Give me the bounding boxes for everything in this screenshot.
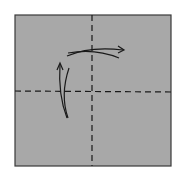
origami-diagram <box>0 0 179 177</box>
paper-square <box>15 15 171 166</box>
